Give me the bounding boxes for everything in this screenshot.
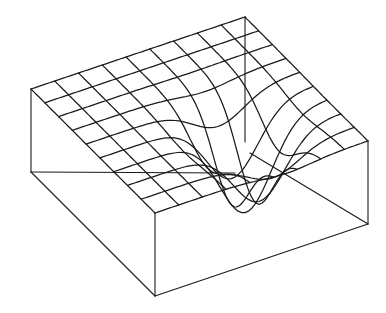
mesh-line-v-9	[155, 141, 368, 213]
mesh-line-u-1	[55, 81, 179, 205]
box-edge-bottom-left	[31, 172, 155, 296]
box-edge-bottom-right	[155, 224, 368, 296]
surface-mesh	[31, 17, 368, 213]
mesh-line-v-0	[31, 17, 245, 89]
mesh-line-v-6	[114, 100, 327, 213]
mesh-line-v-3	[72, 58, 286, 130]
mesh-line-v-1	[45, 31, 259, 103]
mesh-line-u-4	[126, 57, 250, 183]
mesh-line-u-0	[31, 89, 155, 213]
surface-plot	[0, 0, 386, 313]
box-section-left	[31, 172, 235, 173]
wireframe-diagram	[0, 0, 386, 313]
mesh-line-u-2	[79, 73, 203, 197]
mesh-line-v-2	[59, 45, 273, 117]
mesh-line-u-7	[197, 33, 320, 159]
mesh-line-u-8	[221, 25, 344, 149]
